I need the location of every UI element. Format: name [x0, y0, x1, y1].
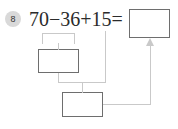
step-two-connector-up — [150, 45, 151, 105]
expression-text: 70−36+15= — [29, 7, 123, 31]
first-step-box[interactable] — [38, 49, 79, 73]
step-one-connector-to-step-two — [82, 82, 83, 93]
step-two-connector-right — [103, 104, 151, 105]
addend-connector-line — [105, 31, 106, 83]
grouping-bracket-top — [42, 33, 75, 34]
grouping-bracket-right — [74, 33, 75, 44]
grouping-bracket-drop — [58, 43, 59, 50]
math-problem-worksheet: 8 70−36+15= — [0, 0, 178, 129]
grouping-bracket-left — [42, 33, 43, 44]
answer-box[interactable] — [129, 9, 170, 38]
second-step-box[interactable] — [62, 92, 103, 117]
arrow-up-icon — [146, 38, 154, 46]
problem-number-badge: 8 — [5, 11, 21, 27]
